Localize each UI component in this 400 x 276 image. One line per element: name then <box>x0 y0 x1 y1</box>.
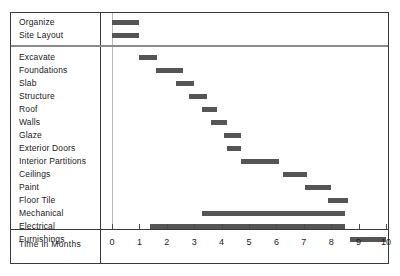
task-bar-track <box>101 116 388 129</box>
axis-tick-label: 4 <box>219 237 224 247</box>
task-plot-column-preconstruction <box>101 13 388 45</box>
task-label: Foundations <box>19 64 67 77</box>
task-row: Foundations <box>11 64 100 77</box>
task-row: Floor Tile <box>11 194 100 207</box>
axis-tick-label: 9 <box>356 237 361 247</box>
task-bar[interactable] <box>189 94 207 99</box>
task-row: Excavate <box>11 51 100 64</box>
task-row: Glaze <box>11 129 100 142</box>
task-bar[interactable] <box>305 185 331 190</box>
task-row: Exterior Doors <box>11 142 100 155</box>
task-row: Site Layout <box>11 29 100 42</box>
task-row: Walls <box>11 116 100 129</box>
task-row: Structure <box>11 90 100 103</box>
task-group-construction: ExcavateFoundationsSlabStructureRoofWall… <box>11 47 388 230</box>
time-axis-row: Time in Months 012345678910 <box>11 230 388 263</box>
task-bar[interactable] <box>202 107 217 112</box>
axis-tick-label: 3 <box>192 237 197 247</box>
task-bar-track <box>101 77 388 90</box>
axis-tick-mark <box>359 224 360 229</box>
task-label: Paint <box>19 181 39 194</box>
task-row: Ceilings <box>11 168 100 181</box>
task-label: Organize <box>19 16 55 29</box>
axis-tick-label: 2 <box>164 237 169 247</box>
task-bar-track <box>101 103 388 116</box>
axis-tick-label: 7 <box>301 237 306 247</box>
task-bar-track <box>101 142 388 155</box>
task-label-column-preconstruction: OrganizeSite Layout <box>11 13 101 45</box>
task-bar[interactable] <box>227 146 241 151</box>
task-bar-track <box>101 168 388 181</box>
axis-tick-mark <box>112 224 113 229</box>
axis-tick-mark <box>194 224 195 229</box>
task-row: Slab <box>11 77 100 90</box>
task-row: Mechanical <box>11 207 100 220</box>
task-bar[interactable] <box>112 33 139 38</box>
axis-tick-label: 5 <box>246 237 251 247</box>
task-row: Roof <box>11 103 100 116</box>
gantt-chart-frame: OrganizeSite Layout ExcavateFoundationsS… <box>10 12 389 264</box>
task-bar[interactable] <box>139 55 157 60</box>
axis-scale: 012345678910 <box>101 230 388 263</box>
task-bar-track <box>101 29 388 42</box>
axis-tick-label: 0 <box>109 237 114 247</box>
task-bar[interactable] <box>156 68 183 73</box>
task-bar[interactable] <box>202 211 344 216</box>
task-label: Interior Partitions <box>19 155 86 168</box>
task-group-preconstruction: OrganizeSite Layout <box>11 13 388 47</box>
task-bar-track <box>101 181 388 194</box>
task-label-column-construction: ExcavateFoundationsSlabStructureRoofWall… <box>11 47 101 229</box>
task-bar-track <box>101 51 388 64</box>
axis-title-cell: Time in Months <box>11 230 101 263</box>
task-label: Structure <box>19 90 55 103</box>
task-bar-track <box>101 64 388 77</box>
task-bar[interactable] <box>224 133 240 138</box>
task-plot-column-construction <box>101 47 388 229</box>
task-label: Excavate <box>19 51 55 64</box>
task-label: Mechanical <box>19 207 64 220</box>
axis-tick-mark <box>249 224 250 229</box>
task-label: Walls <box>19 116 40 129</box>
axis-tick-mark <box>222 224 223 229</box>
axis-tick-mark <box>139 224 140 229</box>
axis-tick-label: 1 <box>137 237 142 247</box>
task-label: Exterior Doors <box>19 142 75 155</box>
axis-tick-label: 6 <box>274 237 279 247</box>
task-bar-track <box>101 207 388 220</box>
axis-tick-mark <box>276 224 277 229</box>
task-bar-track <box>101 90 388 103</box>
axis-tick-mark <box>331 224 332 229</box>
axis-tick-mark <box>304 224 305 229</box>
task-label: Slab <box>19 77 37 90</box>
task-bar[interactable] <box>211 120 227 125</box>
task-row: Organize <box>11 16 100 29</box>
task-bar[interactable] <box>176 81 194 86</box>
task-bar-track <box>101 194 388 207</box>
task-bar[interactable] <box>112 20 139 25</box>
task-bar-track <box>101 16 388 29</box>
task-label: Site Layout <box>19 29 63 42</box>
task-bar-track <box>101 129 388 142</box>
axis-tick-mark <box>167 224 168 229</box>
task-bar[interactable] <box>328 198 347 203</box>
axis-tick-label: 10 <box>381 237 391 247</box>
task-label: Ceilings <box>19 168 50 181</box>
task-row: Paint <box>11 181 100 194</box>
task-label: Glaze <box>19 129 42 142</box>
axis-tick-marks <box>101 224 388 230</box>
axis-title-label: Time in Months <box>19 239 81 249</box>
axis-tick-mark <box>386 224 387 229</box>
task-row: Interior Partitions <box>11 155 100 168</box>
task-label: Roof <box>19 103 38 116</box>
task-bar[interactable] <box>283 172 306 177</box>
task-label: Floor Tile <box>19 194 55 207</box>
task-bar-track <box>101 155 388 168</box>
task-bar[interactable] <box>241 159 279 164</box>
axis-tick-label: 8 <box>329 237 334 247</box>
